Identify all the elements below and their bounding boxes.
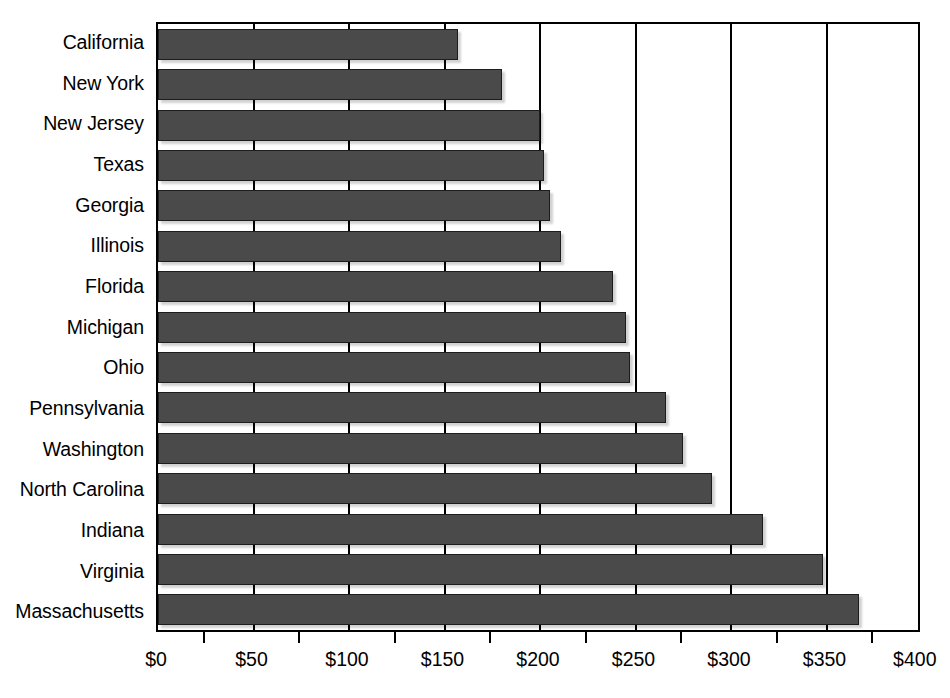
x-axis-minor-tick <box>680 632 682 643</box>
x-axis-ticks <box>156 632 920 644</box>
category-label: Georgia <box>0 185 150 226</box>
bar <box>158 231 561 262</box>
category-axis-labels: CaliforniaNew YorkNew JerseyTexasGeorgia… <box>0 22 150 632</box>
category-label: Virginia <box>0 551 150 592</box>
category-label: Illinois <box>0 225 150 266</box>
bar <box>158 594 859 625</box>
category-label: California <box>0 22 150 63</box>
bar-row <box>158 388 918 428</box>
bar-row <box>158 24 918 64</box>
bar-row <box>158 145 918 185</box>
x-axis-minor-tick <box>203 632 205 643</box>
x-axis-tick-label: $150 <box>421 648 464 671</box>
x-axis-minor-tick <box>298 632 300 643</box>
x-axis-tick-label: $0 <box>145 648 167 671</box>
bar <box>158 514 763 545</box>
x-axis-tick-label: $250 <box>612 648 655 671</box>
bar <box>158 150 544 181</box>
category-label: North Carolina <box>0 469 150 510</box>
category-label: Massachusetts <box>0 591 150 632</box>
bar <box>158 271 613 302</box>
x-axis-tick-label: $400 <box>893 648 936 671</box>
category-label: Michigan <box>0 307 150 348</box>
bar-row <box>158 226 918 266</box>
bar <box>158 69 502 100</box>
category-label: New York <box>0 63 150 104</box>
bar-row <box>158 509 918 549</box>
bar-row <box>158 186 918 226</box>
bar <box>158 29 458 60</box>
x-axis-minor-tick <box>489 632 491 643</box>
category-label: Florida <box>0 266 150 307</box>
x-axis-tick-label: $300 <box>707 648 750 671</box>
category-label: Ohio <box>0 347 150 388</box>
bar <box>158 110 540 141</box>
bar-row <box>158 549 918 589</box>
bar-row <box>158 64 918 104</box>
bar-chart: CaliforniaNew YorkNew JerseyTexasGeorgia… <box>0 0 950 698</box>
x-axis-tick-label: $200 <box>516 648 559 671</box>
x-axis-tick-label: $350 <box>803 648 846 671</box>
x-axis-tick-label: $50 <box>235 648 268 671</box>
x-axis-minor-tick <box>394 632 396 643</box>
category-label: Washington <box>0 429 150 470</box>
bar-row <box>158 590 918 630</box>
bar <box>158 312 626 343</box>
category-label: Texas <box>0 144 150 185</box>
x-axis-minor-tick <box>871 632 873 643</box>
category-label: Indiana <box>0 510 150 551</box>
bar <box>158 190 550 221</box>
category-label: New Jersey <box>0 103 150 144</box>
bar <box>158 433 683 464</box>
bar <box>158 554 823 585</box>
x-axis-tick-label: $100 <box>325 648 368 671</box>
x-axis-minor-tick <box>776 632 778 643</box>
bar <box>158 352 630 383</box>
bar-row <box>158 347 918 387</box>
bar <box>158 392 666 423</box>
bar-series <box>158 24 918 630</box>
plot-area <box>156 22 920 632</box>
bar-row <box>158 307 918 347</box>
x-axis-tick-labels: $0$50$100$150$200$250$300$350$400 <box>0 648 950 688</box>
bar-row <box>158 266 918 306</box>
x-axis-minor-tick <box>585 632 587 643</box>
bar-row <box>158 428 918 468</box>
bar-row <box>158 468 918 508</box>
bar <box>158 473 712 504</box>
category-label: Pennsylvania <box>0 388 150 429</box>
bar-row <box>158 105 918 145</box>
